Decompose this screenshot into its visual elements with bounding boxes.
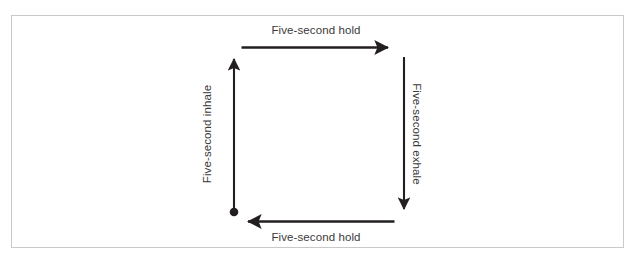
inhale-label-text: Five-second inhale — [201, 85, 213, 183]
hold-top-label: Five-second hold — [0, 24, 636, 36]
box-breathing-figure: Five-second hold Five-second hold Five-s… — [0, 0, 636, 267]
breathing-cycle-diagram — [0, 0, 636, 267]
hold-top-label-text: Five-second hold — [271, 24, 360, 36]
hold-bottom-label: Five-second hold — [0, 231, 636, 243]
exhale-label-text: Five-second exhale — [411, 83, 423, 185]
hold-bottom-label-text: Five-second hold — [271, 231, 360, 243]
start-dot — [230, 208, 239, 217]
